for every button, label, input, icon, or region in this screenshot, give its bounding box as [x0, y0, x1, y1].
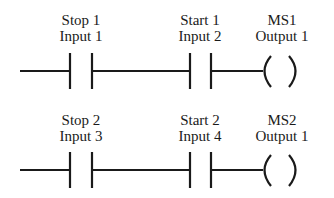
rung-2	[20, 152, 296, 188]
rung1-coil-symbol	[265, 56, 296, 87]
rung2-contact1-symbol	[70, 152, 92, 188]
ladder-wiring	[0, 0, 334, 198]
rung2-contact2-symbol	[190, 152, 211, 188]
rung1-contact2-symbol	[190, 53, 211, 89]
rung2-coil-symbol	[265, 155, 296, 186]
ladder-diagram: Stop 1 Input 1 Start 1 Input 2 MS1 Outpu…	[0, 0, 334, 198]
rung1-contact1-symbol	[70, 53, 92, 89]
rung-1	[20, 53, 296, 89]
